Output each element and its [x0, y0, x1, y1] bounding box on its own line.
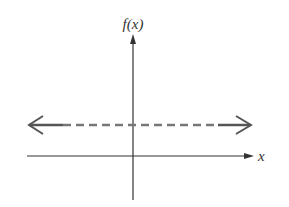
x-axis-arrow-icon — [244, 153, 254, 159]
y-axis-label: f(x) — [123, 16, 144, 33]
chart: f(x) x — [0, 0, 289, 207]
x-axis-label: x — [257, 148, 265, 164]
y-axis-arrow-icon — [130, 34, 136, 44]
